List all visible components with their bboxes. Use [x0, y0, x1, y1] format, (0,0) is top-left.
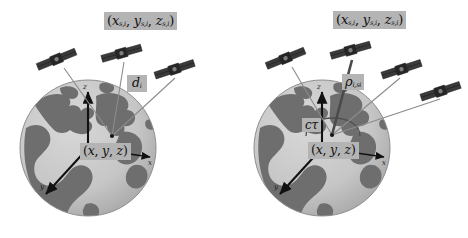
clock-bias-label: cτ — [302, 118, 321, 132]
comma-1: , — [126, 13, 134, 28]
comma-2: , — [337, 142, 345, 157]
x-symbol: x — [341, 12, 348, 27]
y-symbol: y — [102, 143, 109, 158]
tau-symbol: τ — [312, 118, 318, 132]
satellite-position-label: (xs,i, ys,i, zs,i) — [104, 12, 177, 30]
comma-2: , — [148, 13, 156, 28]
y-axis-label: y — [274, 184, 278, 191]
satellite-position-label: (xs,i, ys,i, zs,i) — [333, 11, 406, 29]
y-axis-label: y — [40, 184, 44, 191]
x-subscript: s,i — [348, 19, 355, 27]
comma-1: , — [323, 142, 331, 157]
y-symbol: y — [134, 13, 141, 28]
pseudorange-label: ρi,si — [342, 74, 364, 90]
satellite-1 — [36, 47, 78, 71]
x-axis-label: x — [382, 160, 386, 167]
y-symbol: y — [330, 142, 337, 157]
receiver-point — [110, 134, 114, 138]
satellite-3 — [381, 58, 423, 80]
geometric-range-label: di — [127, 75, 147, 92]
satellite-4 — [420, 80, 462, 102]
receiver-position-label: (x, y, z) — [308, 142, 359, 159]
x-symbol: x — [88, 143, 95, 158]
comma-2: , — [109, 143, 117, 158]
z-axis-label: z — [83, 84, 87, 91]
y-symbol: y — [363, 12, 370, 27]
comma-1: , — [95, 143, 103, 158]
satellite-1 — [265, 46, 307, 70]
paren-close: ) — [351, 142, 356, 157]
pseudorange-panel: (xs,i, ys,i, zs,i) ρi,si cτ (x, y, z) z … — [234, 0, 468, 238]
satellite-2 — [101, 43, 143, 63]
z-axis-label: z — [317, 84, 321, 91]
paren-close: ) — [398, 12, 403, 27]
gps-geometry-figure: (xs,i, ys,i, zs,i) di (x, y, z) z y x — [0, 0, 468, 238]
receiver-point — [330, 133, 334, 137]
paren-close: ) — [123, 143, 128, 158]
receiver-position-label: (x, y, z) — [80, 143, 131, 160]
comma-2: , — [377, 12, 385, 27]
satellite-3 — [154, 58, 196, 80]
paren-close: ) — [169, 13, 174, 28]
x-symbol: x — [112, 13, 119, 28]
d-subscript: i — [140, 82, 142, 90]
rho-subscript: i,si — [352, 81, 361, 89]
comma-1: , — [355, 12, 363, 27]
x-axis-label: x — [148, 160, 152, 167]
satellite-2 — [330, 40, 372, 60]
y-subscript: s,i — [370, 19, 377, 27]
x-subscript: s,i — [119, 20, 126, 28]
y-subscript: s,i — [141, 20, 148, 28]
geometric-range-panel: (xs,i, ys,i, zs,i) di (x, y, z) z y x — [0, 0, 234, 238]
d-symbol: d — [132, 75, 140, 90]
x-symbol: x — [316, 142, 323, 157]
